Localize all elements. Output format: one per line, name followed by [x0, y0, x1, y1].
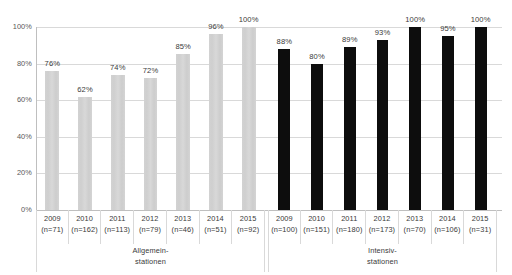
category-year: 2014 [439, 213, 456, 224]
bar-series-container: 76%62%74%72%85%96%100%88%80%89%93%100%95… [36, 27, 502, 210]
x-axis-category-cell: 2015(n=92) [232, 210, 265, 244]
bar-rect [409, 27, 421, 210]
bar-value-label: 80% [309, 52, 325, 61]
category-year: 2009 [276, 213, 293, 224]
y-axis-tick-labels: 100%80%60%40%20%0% [0, 27, 32, 210]
bar-rect [311, 64, 323, 210]
bar-value-label: 100% [239, 15, 259, 24]
bar-allgemein-2012: 72% [144, 27, 158, 210]
category-year: 2013 [406, 213, 423, 224]
y-axis-tick-0: 0% [0, 205, 32, 214]
bar-value-label: 93% [375, 28, 391, 37]
x-axis-category-cell: 2010(n=162) [69, 210, 102, 244]
category-sample-size: (n=100) [271, 224, 297, 235]
x-axis-category-cell: 2014(n=106) [432, 210, 465, 244]
bar-value-label: 76% [45, 59, 61, 68]
category-sample-size: (n=106) [434, 224, 460, 235]
category-sample-size: (n=113) [104, 224, 130, 235]
bar-intensiv-2013: 100% [409, 27, 421, 210]
category-year: 2014 [207, 213, 224, 224]
category-year: 2009 [44, 213, 61, 224]
bar-rect [209, 34, 223, 210]
bar-rect [377, 40, 389, 210]
bar-intensiv-2015: 100% [475, 27, 487, 210]
category-sample-size: (n=31) [469, 224, 491, 235]
bar-value-label: 62% [77, 85, 93, 94]
x-axis-category-cell: 2013(n=70) [399, 210, 432, 244]
bar-allgemein-2009: 76% [45, 27, 59, 210]
y-axis-tick-80: 80% [0, 59, 32, 68]
x-axis-category-cell: 2012(n=173) [366, 210, 399, 244]
bar-allgemein-2014: 96% [209, 27, 223, 210]
x-axis-category-cell: 2011(n=113) [101, 210, 134, 244]
category-sample-size: (n=70) [404, 224, 426, 235]
bar-rect [344, 47, 356, 210]
category-sample-size: (n=46) [172, 224, 194, 235]
x-axis-category-cell: 2015(n=31) [464, 210, 497, 244]
category-year: 2012 [142, 213, 159, 224]
x-axis-category-cell: 2012(n=79) [134, 210, 167, 244]
bar-rect [144, 78, 158, 210]
bar-intensiv-2012: 93% [377, 27, 389, 210]
bar-value-label: 95% [440, 24, 456, 33]
category-year: 2011 [109, 213, 125, 224]
bar-value-label: 100% [405, 15, 425, 24]
bar-value-label: 96% [208, 22, 224, 31]
bar-value-label: 89% [342, 35, 358, 44]
bar-rect [111, 75, 125, 210]
bar-chart: 100%80%60%40%20%0% 76%62%74%72%85%96%100… [0, 0, 512, 275]
category-year: 2013 [174, 213, 191, 224]
x-axis-category-cell: 2009(n=71) [36, 210, 69, 244]
bar-intensiv-2011: 89% [344, 27, 356, 210]
category-sample-size: (n=51) [204, 224, 226, 235]
bar-rect [442, 36, 454, 210]
category-year: 2010 [76, 213, 93, 224]
x-axis-category-cell: 2014(n=51) [200, 210, 233, 244]
bar-allgemein-2011: 74% [111, 27, 125, 210]
bar-value-label: 100% [471, 15, 491, 24]
category-year: 2015 [472, 213, 489, 224]
category-sample-size: (n=173) [369, 224, 395, 235]
x-axis-category-cell: 2010(n=151) [301, 210, 334, 244]
x-axis-category-cell: 2009(n=100) [268, 210, 301, 244]
category-sample-size: (n=180) [336, 224, 362, 235]
category-sample-size: (n=71) [41, 224, 63, 235]
category-year: 2015 [240, 213, 257, 224]
bar-rect [242, 27, 256, 210]
bar-allgemein-2015: 100% [242, 27, 256, 210]
category-year: 2012 [374, 213, 391, 224]
y-axis-tick-40: 40% [0, 132, 32, 141]
category-sample-size: (n=151) [303, 224, 329, 235]
bar-rect [45, 71, 59, 210]
y-axis-tick-60: 60% [0, 95, 32, 104]
bar-value-label: 74% [110, 63, 126, 72]
category-year: 2010 [308, 213, 325, 224]
category-sample-size: (n=92) [237, 224, 259, 235]
bar-rect [475, 27, 487, 210]
bar-rect [176, 54, 190, 210]
bar-rect [278, 49, 290, 210]
x-axis-category-cell: 2013(n=46) [167, 210, 200, 244]
y-axis-tick-100: 100% [0, 22, 32, 31]
bar-rect [78, 97, 92, 210]
bar-value-label: 85% [175, 42, 191, 51]
bar-intensiv-2014: 95% [442, 27, 454, 210]
category-sample-size: (n=162) [71, 224, 97, 235]
bar-value-label: 88% [277, 37, 293, 46]
bar-value-label: 72% [143, 66, 159, 75]
category-year: 2011 [341, 213, 357, 224]
bar-intensiv-2010: 80% [311, 27, 323, 210]
bar-intensiv-2009: 88% [278, 27, 290, 210]
category-sample-size: (n=79) [139, 224, 161, 235]
x-axis-category-cell: 2011(n=180) [333, 210, 366, 244]
bar-allgemein-2010: 62% [78, 27, 92, 210]
bar-allgemein-2013: 85% [176, 27, 190, 210]
y-axis-tick-20: 20% [0, 168, 32, 177]
